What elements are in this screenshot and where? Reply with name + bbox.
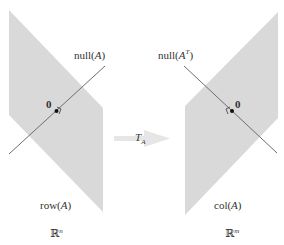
subspace-diagram: 0 null(A) row(A) ℝn TA 0 null(AT) col(A)… xyxy=(0,0,284,245)
origin-dot-left xyxy=(55,109,59,113)
domain-space-label: ℝn xyxy=(50,227,63,239)
origin-label-right: 0 xyxy=(235,98,241,110)
origin-label-left: 0 xyxy=(46,98,52,110)
left-null-space-label: null(AT) xyxy=(158,48,193,62)
column-space-label: col(A) xyxy=(214,199,242,212)
null-space-label: null(A) xyxy=(74,49,106,62)
origin-dot-right xyxy=(230,109,234,113)
column-space-plane xyxy=(185,12,278,215)
codomain-space-label: ℝm xyxy=(225,227,239,239)
row-space-label: row(A) xyxy=(40,199,72,212)
